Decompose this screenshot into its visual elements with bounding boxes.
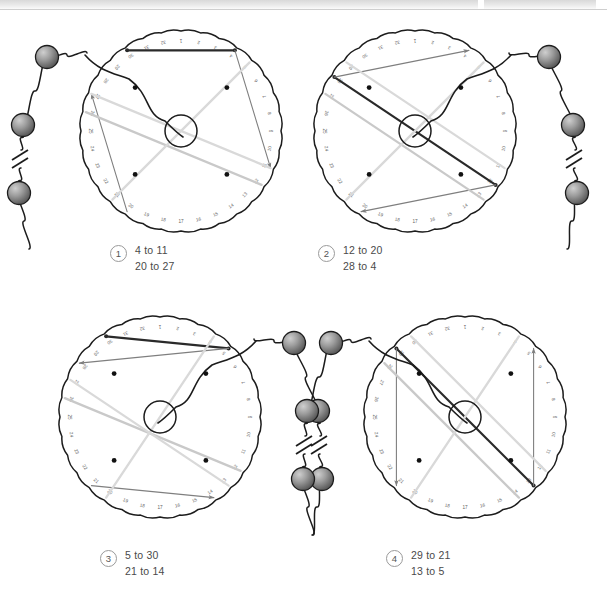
chain-bead: [562, 114, 585, 137]
dial-4: 1234567891011121314151617181920212223242…: [292, 316, 567, 535]
chain-bead: [8, 182, 31, 205]
interior-dot: [367, 85, 372, 90]
chain-bead: [12, 114, 35, 137]
chain-bead: [566, 182, 589, 205]
interior-dot: [203, 458, 208, 463]
dial-1: 1234567891011121314151617181920212223242…: [8, 30, 283, 249]
dial-tick-label: 1: [413, 38, 416, 43]
dial-tick-label: 25: [322, 128, 327, 134]
interior-dot: [458, 172, 463, 177]
panel-badge: 3: [100, 550, 117, 567]
caption-2: 2 12 to 20 28 to 4: [318, 244, 383, 272]
panel-badge: 1: [110, 245, 127, 262]
dial-tick-label: 1: [179, 38, 182, 43]
interior-dot: [112, 371, 117, 376]
caption-line: 20 to 27: [135, 260, 175, 272]
caption-1: 1 4 to 11 20 to 27: [110, 244, 175, 272]
dial-3: 1234567891011121314151617181920212223242…: [59, 316, 334, 535]
interior-dot: [508, 458, 513, 463]
dial-2: 1234567891011121314151617181920212223242…: [314, 30, 589, 249]
interior-dot: [203, 371, 208, 376]
dial-tick-label: 17: [462, 505, 468, 510]
panel-badge: 4: [386, 550, 403, 567]
caption-line: 29 to 21: [411, 549, 451, 561]
interior-dot: [133, 85, 138, 90]
dial-tick-label: 17: [178, 219, 184, 224]
chord-endpoint: [104, 334, 108, 338]
interior-dot: [417, 371, 422, 376]
caption-4: 4 29 to 21 13 to 5: [386, 549, 451, 577]
caption-line: 5 to 30: [125, 549, 165, 561]
chain-bead: [320, 332, 343, 355]
figure-canvas: 1234567891011121314151617181920212223242…: [0, 0, 607, 611]
dial-tick-label: 17: [157, 505, 163, 510]
dial-tick-label: 9: [553, 415, 558, 418]
interior-dot: [133, 172, 138, 177]
chord-endpoint: [125, 48, 129, 52]
caption-3: 3 5 to 30 21 to 14: [100, 549, 165, 577]
chain-bead: [292, 468, 315, 491]
interior-dot: [508, 371, 513, 376]
dial-tick-label: 1: [158, 324, 161, 329]
dial-tick-label: 25: [372, 414, 377, 420]
interior-dot: [224, 172, 229, 177]
chain-bead: [283, 332, 306, 355]
dial-tick-label: 25: [67, 414, 72, 420]
dial-tick-label: 9: [503, 129, 508, 132]
chain-bead: [36, 46, 59, 69]
chain-bead: [296, 400, 319, 423]
interior-dot: [367, 172, 372, 177]
caption-line: 4 to 11: [135, 244, 175, 256]
caption-line: 13 to 5: [411, 565, 451, 577]
dial-tick-label: 1: [463, 324, 466, 329]
panel-badge: 2: [318, 245, 335, 262]
caption-line: 12 to 20: [343, 244, 383, 256]
dial-tick-label: 9: [248, 415, 253, 418]
dial-tick-label: 25: [88, 128, 93, 134]
interior-dot: [417, 458, 422, 463]
chain-bead: [538, 46, 561, 69]
dial-tick-label: 17: [412, 219, 418, 224]
interior-dot: [458, 85, 463, 90]
interior-dot: [112, 458, 117, 463]
dial-tick-label: 9: [269, 129, 274, 132]
caption-line: 21 to 14: [125, 565, 165, 577]
caption-line: 28 to 4: [343, 260, 383, 272]
interior-dot: [224, 85, 229, 90]
